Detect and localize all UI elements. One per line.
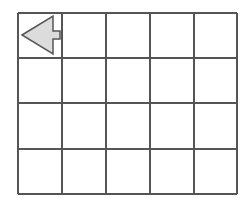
left-arrow-icon <box>22 16 60 54</box>
grid-diagram <box>0 0 251 198</box>
